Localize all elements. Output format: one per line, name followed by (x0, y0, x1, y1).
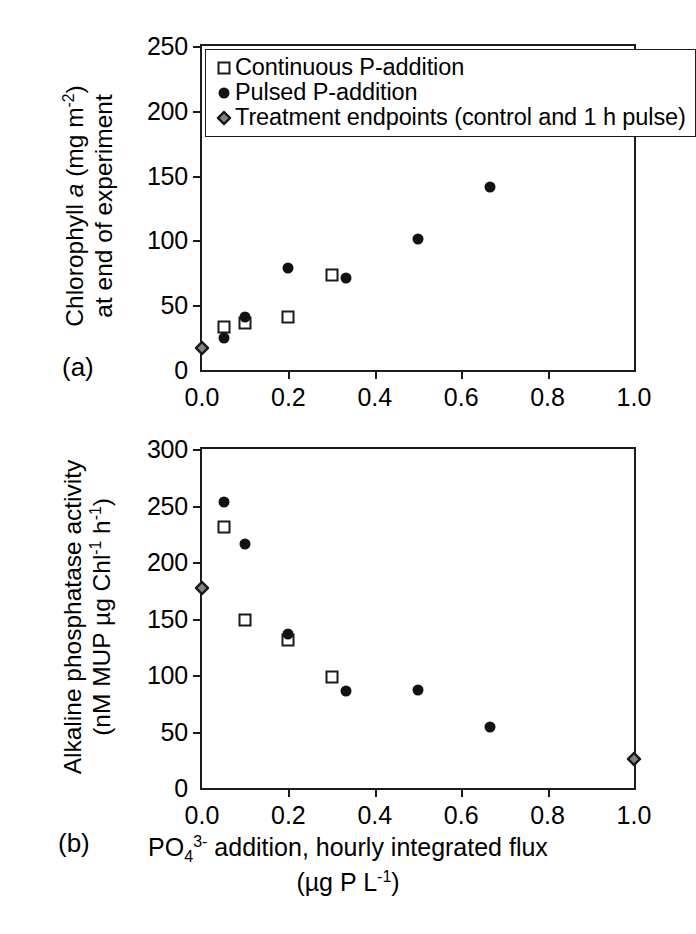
panel-a-label: (a) (62, 352, 94, 383)
figure-two-panel-scatter: Chlorophyll a (mg m-2) at end of experim… (0, 0, 696, 934)
marker-filled-circle (283, 262, 294, 273)
x-axis-tick (548, 788, 550, 797)
y-axis-tick-label: 0 (174, 774, 188, 803)
y-axis-tick-label: 250 (147, 32, 188, 61)
panel-b: Alkaline phosphatase activity (nM MUP µg… (0, 400, 696, 934)
marker-open-square (217, 520, 230, 533)
y-axis-tick-label: 150 (147, 161, 188, 190)
legend-symbol (213, 57, 235, 79)
y-axis-title-b-line2: (nM MUP µg Chl-1 h-1) (87, 459, 117, 774)
legend-item: Pulsed P-addition (213, 80, 686, 105)
x-axis-tick-label: 0.2 (271, 801, 306, 830)
x-axis-tick-label: 0.8 (530, 801, 565, 830)
y-axis-tick (193, 449, 202, 451)
y-axis-tick (193, 562, 202, 564)
marker-filled-circle (340, 272, 351, 283)
marker-filled-circle (340, 685, 351, 696)
marker-diamond (217, 110, 232, 125)
marker-filled-circle (240, 538, 251, 549)
y-axis-tick-label: 0 (174, 356, 188, 385)
y-axis-tick-label: 100 (147, 661, 188, 690)
x-axis-tick (288, 370, 290, 379)
x-axis-tick-label: 1.0 (617, 801, 652, 830)
x-axis-tick-label: 0.0 (185, 801, 220, 830)
y-axis-tick-label: 150 (147, 604, 188, 633)
marker-filled-circle (485, 182, 496, 193)
marker-filled-circle (413, 234, 424, 245)
marker-open-square (218, 61, 231, 74)
y-axis-title-a-line2: at end of experiment (89, 85, 117, 326)
marker-diamond (627, 751, 642, 766)
y-axis-title-b: Alkaline phosphatase activity (nM MUP µg… (59, 459, 117, 774)
x-axis-title-line2: (µg P L-1) (0, 867, 696, 897)
y-axis-tick (193, 176, 202, 178)
y-axis-title-a-line1: Chlorophyll a (mg m-2) (59, 85, 89, 326)
legend-item: Treatment endpoints (control and 1 h pul… (213, 105, 686, 130)
y-axis-tick (193, 506, 202, 508)
legend-symbol (213, 107, 235, 129)
marker-filled-circle (240, 311, 251, 322)
y-axis-tick-label: 250 (147, 491, 188, 520)
marker-filled-circle (283, 629, 294, 640)
y-axis-tick-label: 300 (147, 435, 188, 464)
y-axis-title-a: Chlorophyll a (mg m-2) at end of experim… (59, 85, 117, 326)
x-axis-tick (548, 370, 550, 379)
marker-open-square (282, 310, 295, 323)
marker-open-square (325, 269, 338, 282)
y-axis-tick (193, 111, 202, 113)
legend-item: Continuous P-addition (213, 55, 686, 80)
x-axis-tick-label: 0.4 (357, 801, 392, 830)
x-axis-tick (375, 370, 377, 379)
x-axis-tick-label: 0.6 (444, 801, 479, 830)
y-axis-title-b-line1: Alkaline phosphatase activity (59, 459, 87, 774)
y-axis-tick (193, 305, 202, 307)
marker-filled-circle (485, 721, 496, 732)
marker-open-square (325, 671, 338, 684)
marker-diamond (195, 580, 210, 595)
marker-filled-circle (219, 87, 230, 98)
marker-filled-circle (218, 332, 229, 343)
y-axis-tick (193, 46, 202, 48)
y-axis-tick (193, 675, 202, 677)
x-axis-tick (461, 370, 463, 379)
marker-filled-circle (413, 684, 424, 695)
y-axis-tick (193, 732, 202, 734)
y-axis-tick-label: 200 (147, 548, 188, 577)
x-axis-tick (375, 788, 377, 797)
legend-label: Treatment endpoints (control and 1 h pul… (235, 104, 686, 131)
y-axis-tick (193, 619, 202, 621)
panel-a: Chlorophyll a (mg m-2) at end of experim… (0, 0, 696, 400)
marker-filled-circle (218, 497, 229, 508)
legend-label: Continuous P-addition (235, 54, 464, 81)
x-axis-title: PO43- addition, hourly integrated flux (… (0, 832, 696, 897)
y-axis-tick-label: 100 (147, 226, 188, 255)
y-axis-tick-label: 50 (161, 291, 188, 320)
plot-area-a: 050100150200250 0.00.20.40.60.81.0 Conti… (200, 44, 636, 372)
plot-area-b: 050100150200250300 0.00.20.40.60.81.0 (200, 447, 636, 790)
legend: Continuous P-additionPulsed P-additionTr… (205, 49, 696, 137)
marker-open-square (239, 613, 252, 626)
x-axis-title-line1: PO43- addition, hourly integrated flux (0, 832, 696, 867)
legend-label: Pulsed P-addition (235, 79, 418, 106)
marker-diamond (195, 340, 210, 355)
x-axis-tick (288, 788, 290, 797)
x-axis-tick (461, 788, 463, 797)
y-axis-tick-label: 50 (161, 717, 188, 746)
legend-symbol (213, 82, 235, 104)
y-axis-tick-label: 200 (147, 96, 188, 125)
y-axis-tick (193, 240, 202, 242)
